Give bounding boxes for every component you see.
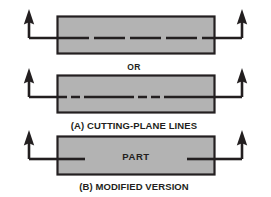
- arrow-head-up-icon: [237, 9, 247, 25]
- right-arrow-modified: [215, 130, 247, 159]
- arrow-head-up-icon: [24, 130, 34, 146]
- part-label: PART: [122, 151, 150, 162]
- or-label: OR: [127, 62, 141, 72]
- arrow-head-up-icon: [24, 9, 34, 25]
- figure-container: OR (A) CUTTING-PLANE LINES: [0, 0, 271, 197]
- panel-b: PART: [24, 130, 247, 175]
- part-body-rect: [58, 76, 215, 113]
- caption-a: (A) CUTTING-PLANE LINES: [71, 120, 197, 131]
- arrow-head-up-icon: [24, 68, 34, 84]
- arrow-head-up-icon: [237, 68, 247, 84]
- arrow-head-up-icon: [237, 130, 247, 146]
- left-arrow-modified: [24, 130, 57, 159]
- part-body-rect: [58, 17, 215, 54]
- panel-a-bottom: [24, 68, 247, 113]
- panel-a-top: [24, 9, 247, 54]
- cutting-plane-diagram: OR (A) CUTTING-PLANE LINES: [0, 0, 271, 197]
- caption-b: (B) MODIFIED VERSION: [79, 181, 189, 192]
